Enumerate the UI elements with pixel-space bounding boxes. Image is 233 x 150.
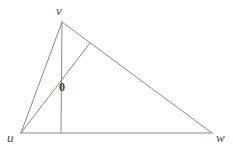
segment-u-v — [21, 22, 62, 133]
vertex-label-u: u — [7, 131, 14, 144]
interior-point-label: 0 — [59, 81, 65, 93]
triangle-outline — [21, 22, 212, 133]
segment-v-foot-altitude — [61, 22, 62, 133]
segment-u-side-point — [21, 43, 90, 133]
vertex-label-v: v — [56, 4, 62, 17]
vertex-label-w: w — [216, 131, 225, 144]
segment-v-w — [62, 22, 212, 133]
geometry-diagram: v u w 0 — [0, 0, 233, 150]
triangle-figure — [0, 0, 233, 150]
